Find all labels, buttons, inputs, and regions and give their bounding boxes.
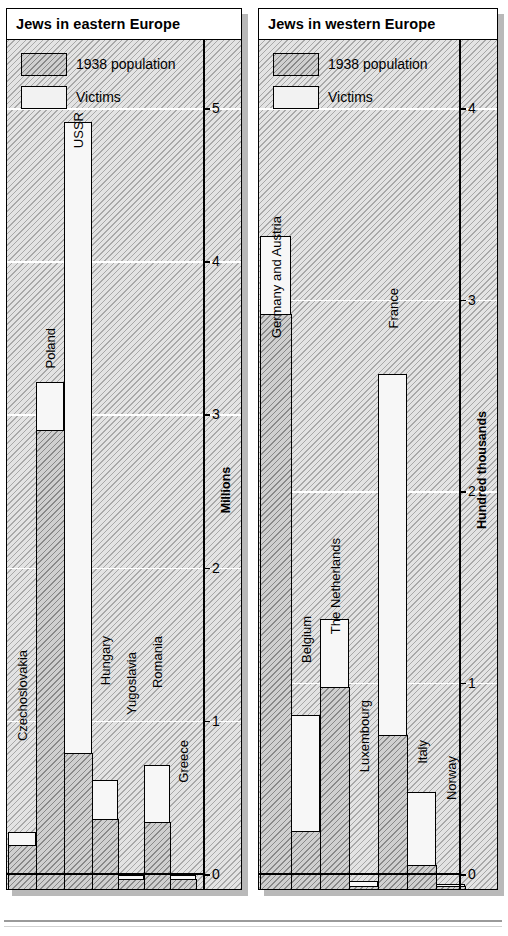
bar-label: Italy bbox=[415, 740, 428, 764]
bar-slot[interactable]: France bbox=[378, 40, 407, 889]
bar-victims[interactable] bbox=[144, 822, 171, 889]
y-axis-tick-3 bbox=[203, 414, 210, 416]
bar-victims[interactable] bbox=[260, 314, 292, 890]
bar-slot[interactable]: Germany and Austria bbox=[260, 40, 291, 889]
panel-title-eastern-europe: Jews in eastern Europe bbox=[7, 9, 241, 40]
bar-label: Germany and Austria bbox=[269, 216, 282, 338]
legend-label-population: 1938 population bbox=[76, 56, 176, 72]
bar-label: Greece bbox=[177, 740, 190, 783]
footer-rule-secondary bbox=[4, 926, 502, 927]
y-axis-tick-label-4: 4 bbox=[212, 254, 220, 268]
legend-western-europe: 1938 population Victims bbox=[273, 52, 428, 118]
bar-victims[interactable] bbox=[8, 845, 37, 889]
y-axis-line bbox=[203, 40, 205, 889]
bar-victims[interactable] bbox=[349, 886, 379, 889]
bar-slot[interactable]: Yugoslavia bbox=[118, 40, 144, 889]
bar-population[interactable] bbox=[291, 715, 320, 889]
y-axis-tick-3 bbox=[459, 300, 466, 302]
figure-root: Jews in eastern Europe 1938 population V… bbox=[0, 0, 508, 936]
bar-label: Yugoslavia bbox=[125, 652, 138, 715]
bar-population[interactable] bbox=[144, 765, 170, 889]
bar-population[interactable] bbox=[378, 374, 407, 889]
legend-item-victims: Victims bbox=[21, 85, 176, 109]
bar-slot[interactable]: Greece bbox=[170, 40, 196, 889]
bar-slot[interactable]: Poland bbox=[36, 40, 64, 889]
y-axis-tick-0 bbox=[203, 874, 210, 876]
y-axis-tick-1 bbox=[203, 721, 210, 723]
bar-population[interactable] bbox=[349, 881, 378, 889]
bar-label: Poland bbox=[44, 328, 57, 368]
bar-victims[interactable] bbox=[407, 865, 437, 889]
panel-title-western-europe: Jews in western Europe bbox=[259, 9, 497, 40]
bar-slot[interactable]: Czechoslovakia bbox=[8, 40, 36, 889]
legend-item-population: 1938 population bbox=[21, 52, 176, 76]
legend-swatch-victims-icon bbox=[273, 86, 319, 109]
legend-swatch-population-icon bbox=[273, 53, 319, 76]
bar-population[interactable] bbox=[170, 875, 196, 889]
legend-swatch-population-icon bbox=[21, 53, 67, 76]
chart-panel-eastern-europe: Jews in eastern Europe 1938 population V… bbox=[6, 8, 242, 890]
bar-label: The Netherlands bbox=[328, 538, 341, 634]
y-axis-tick-label-3: 3 bbox=[212, 407, 220, 421]
y-axis-tick-label-2: 2 bbox=[468, 484, 476, 498]
bar-victims[interactable] bbox=[36, 430, 65, 889]
legend-item-population: 1938 population bbox=[273, 52, 428, 76]
bar-label: Norway bbox=[444, 756, 457, 800]
legend-label-population: 1938 population bbox=[328, 56, 428, 72]
axis-baseline-eastern-europe bbox=[7, 873, 203, 875]
bar-population[interactable] bbox=[36, 382, 64, 889]
bar-label: Luxembourg bbox=[357, 700, 370, 772]
bar-victims[interactable] bbox=[170, 879, 197, 889]
bar-victims[interactable] bbox=[64, 753, 93, 889]
y-axis-tick-label-3: 3 bbox=[468, 293, 476, 307]
bar-group-western-europe: Germany and AustriaBelgiumThe Netherland… bbox=[259, 40, 459, 889]
y-axis-tick-2 bbox=[459, 491, 466, 493]
y-axis-title-hundred-thousands: Hundred thousands bbox=[475, 411, 489, 529]
bar-victims[interactable] bbox=[291, 831, 321, 889]
y-axis-tick-label-0: 0 bbox=[468, 867, 476, 881]
y-axis-tick-2 bbox=[203, 568, 210, 570]
bar-label: Belgium bbox=[299, 616, 312, 663]
bar-population[interactable] bbox=[8, 832, 36, 889]
bar-label: Hungary bbox=[99, 636, 112, 685]
panel-frame: Jews in western Europe 1938 population V… bbox=[258, 8, 498, 890]
bar-victims[interactable] bbox=[118, 879, 145, 889]
axis-baseline-western-europe bbox=[259, 873, 459, 875]
legend-eastern-europe: 1938 population Victims bbox=[21, 52, 176, 118]
bar-slot[interactable]: Belgium bbox=[291, 40, 320, 889]
bar-label: Romania bbox=[151, 636, 164, 688]
bar-label: Czechoslovakia bbox=[16, 650, 29, 741]
bar-slot[interactable]: Luxembourg bbox=[349, 40, 378, 889]
panel-frame: Jews in eastern Europe 1938 population V… bbox=[6, 8, 242, 890]
bar-slot[interactable]: The Netherlands bbox=[320, 40, 349, 889]
y-axis-tick-label-4: 4 bbox=[468, 101, 476, 115]
bar-label: France bbox=[386, 288, 399, 328]
legend-label-victims: Victims bbox=[76, 89, 121, 105]
y-axis-tick-label-2: 2 bbox=[212, 561, 220, 575]
bar-slot[interactable]: Hungary bbox=[92, 40, 118, 889]
bar-victims[interactable] bbox=[92, 819, 119, 889]
y-axis-tick-1 bbox=[459, 683, 466, 685]
bar-population[interactable] bbox=[118, 875, 144, 889]
legend-label-victims: Victims bbox=[328, 89, 373, 105]
y-axis-western-europe: Hundred thousands 01234 bbox=[459, 40, 497, 889]
y-axis-tick-label-5: 5 bbox=[212, 101, 220, 115]
y-axis-title-millions: Millions bbox=[219, 467, 233, 514]
bar-slot[interactable]: USSR bbox=[64, 40, 92, 889]
y-axis-tick-label-1: 1 bbox=[212, 714, 220, 728]
y-axis-eastern-europe: Millions 012345 bbox=[203, 40, 241, 889]
bar-slot[interactable]: Italy bbox=[407, 40, 436, 889]
bar-group-eastern-europe: CzechoslovakiaPolandUSSRHungaryYugoslavi… bbox=[7, 40, 203, 889]
bar-victims[interactable] bbox=[378, 735, 408, 889]
y-axis-tick-label-0: 0 bbox=[212, 867, 220, 881]
bar-victims[interactable] bbox=[320, 687, 350, 889]
legend-item-victims: Victims bbox=[273, 85, 428, 109]
bar-population[interactable] bbox=[64, 122, 92, 890]
y-axis-tick-4 bbox=[459, 108, 466, 110]
bar-slot[interactable]: Romania bbox=[144, 40, 170, 889]
plot-area-western-europe: 1938 population Victims Germany and Aust… bbox=[259, 40, 497, 889]
y-axis-tick-5 bbox=[203, 108, 210, 110]
bar-population[interactable] bbox=[320, 619, 349, 889]
y-axis-tick-label-1: 1 bbox=[468, 676, 476, 690]
y-axis-tick-4 bbox=[203, 261, 210, 263]
